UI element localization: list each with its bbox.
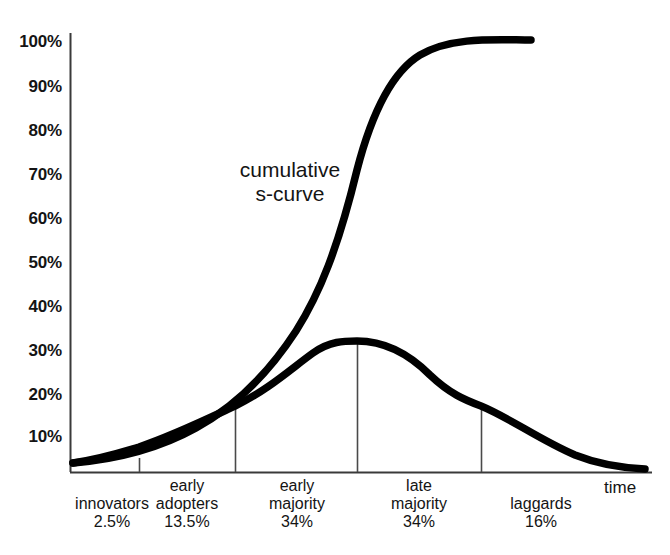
y-tick-label-70: 70% [0, 166, 62, 183]
category-early-majority-percent: 34% [243, 513, 351, 531]
cumulative-s-curve-annotation: cumulative s-curve [190, 158, 390, 205]
category-laggards-percent: 16% [487, 513, 595, 531]
category-late-majority: late majority 34% [365, 477, 473, 531]
y-tick-label-90: 90% [0, 78, 62, 95]
y-tick-label-10: 10% [0, 428, 62, 445]
y-tick-label-50: 50% [0, 254, 62, 271]
category-laggards-name: laggards [487, 495, 595, 513]
category-late-majority-percent: 34% [365, 513, 473, 531]
diffusion-of-innovations-chart: 100% 90% 80% 70% 60% 50% 40% 30% 20% 10%… [0, 0, 670, 555]
category-early-majority-name-2: majority [243, 495, 351, 513]
y-tick-label-100: 100% [0, 33, 62, 50]
category-early-adopters: early adopters 13.5% [133, 477, 241, 531]
annotation-line-1: cumulative [190, 158, 390, 182]
x-axis-title: time [604, 479, 636, 496]
y-tick-label-40: 40% [0, 298, 62, 315]
category-early-adopters-percent: 13.5% [133, 513, 241, 531]
y-tick-label-80: 80% [0, 122, 62, 139]
category-early-majority-name-1: early [243, 477, 351, 495]
category-early-majority: early majority 34% [243, 477, 351, 531]
category-early-adopters-name-1: early [133, 477, 241, 495]
category-late-majority-name-1: late [365, 477, 473, 495]
y-tick-label-20: 20% [0, 386, 62, 403]
category-laggards: laggards 16% [487, 495, 595, 531]
category-late-majority-name-2: majority [365, 495, 473, 513]
chart-canvas [0, 0, 670, 555]
y-tick-label-60: 60% [0, 210, 62, 227]
y-tick-label-30: 30% [0, 342, 62, 359]
annotation-line-2: s-curve [190, 182, 390, 206]
category-early-adopters-name-2: adopters [133, 495, 241, 513]
